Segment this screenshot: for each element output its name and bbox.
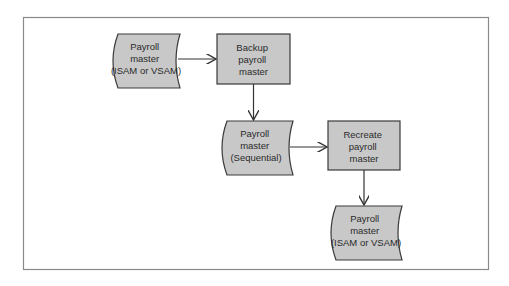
node-label-line: (ISAM or VSAM) xyxy=(111,65,181,76)
node-label-line: (ISAM or VSAM) xyxy=(331,237,401,248)
svg-text:Recreate payroll m: Recreate payroll master xyxy=(343,129,384,164)
node-label-line: master xyxy=(350,225,379,236)
node-payroll-master-sequential: Payroll master (Sequential) xyxy=(222,121,293,175)
node-label-line: master xyxy=(349,153,378,164)
flowchart-diagram: Payroll master (ISAM or VSAM) Backup pay… xyxy=(0,0,509,286)
node-label-line: payroll xyxy=(349,141,377,152)
node-label-line: master xyxy=(239,66,268,77)
node-label-line: master xyxy=(130,53,159,64)
node-label-line: Recreate xyxy=(343,129,382,140)
node-payroll-master-isam-vsam-result: Payroll master (ISAM or VSAM) xyxy=(331,206,402,260)
node-label-line: Payroll xyxy=(350,213,379,224)
node-label-line: master xyxy=(240,140,269,151)
svg-text:Backup payroll mas: Backup payroll master xyxy=(236,42,270,77)
node-label-line: (Sequential) xyxy=(230,152,281,163)
node-label-line: Backup xyxy=(236,42,268,53)
node-label-line: Payroll xyxy=(240,128,269,139)
node-label-line: payroll xyxy=(238,54,266,65)
node-label-line: Payroll xyxy=(130,41,159,52)
node-recreate-payroll-master: Recreate payroll master xyxy=(328,121,400,170)
node-payroll-master-isam-vsam-source: Payroll master (ISAM or VSAM) xyxy=(111,34,181,88)
node-backup-payroll-master: Backup payroll master xyxy=(217,34,290,84)
